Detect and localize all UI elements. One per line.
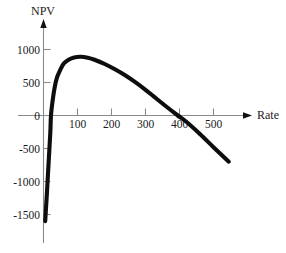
x-axis-title: Rate (257, 108, 279, 122)
x-tick-label-300: 300 (137, 118, 155, 130)
y-tick-label-500: 500 (23, 77, 41, 89)
x-axis-arrow-icon (243, 112, 252, 118)
y-tick-label-minus-500: -500 (19, 143, 40, 155)
y-tick-label-minus-1500: -1500 (13, 209, 40, 221)
x-tick-label-200: 200 (103, 118, 121, 130)
npv-curve (45, 57, 229, 221)
y-tick-label-1000: 1000 (17, 44, 40, 56)
npv-vs-rate-chart: 1000 500 0 -500 -1000 -1500 100 200 300 … (0, 0, 286, 253)
y-axis-arrow-icon (40, 19, 46, 28)
y-tick-label-0: 0 (34, 110, 40, 122)
y-tick-label-minus-1000: -1000 (13, 176, 40, 188)
y-axis-title: NPV (31, 4, 55, 18)
chart-canvas: 1000 500 0 -500 -1000 -1500 100 200 300 … (0, 0, 286, 253)
x-tick-label-500: 500 (205, 118, 223, 130)
x-tick-label-100: 100 (69, 118, 87, 130)
